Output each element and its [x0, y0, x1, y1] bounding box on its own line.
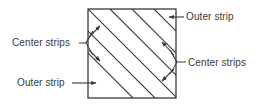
- label-outer-strip-bottom: Outer strip: [17, 77, 65, 89]
- hatch-line: [88, 9, 177, 98]
- diagram-svg: [0, 0, 276, 106]
- hatch-line: [66, 9, 155, 98]
- label-center-strips-left: Center strips: [12, 37, 70, 49]
- leader-arrow-left-upper: [89, 26, 100, 37]
- leader-center-strips-left: [79, 26, 100, 61]
- leader-arrow-right-lower: [162, 69, 174, 81]
- label-center-strips-right: Center strips: [188, 57, 246, 69]
- diagram-canvas: Outer strip Center strips Center strips …: [0, 0, 276, 106]
- label-outer-strip-top: Outer strip: [186, 11, 234, 23]
- leader-center-strips-right: [162, 42, 186, 81]
